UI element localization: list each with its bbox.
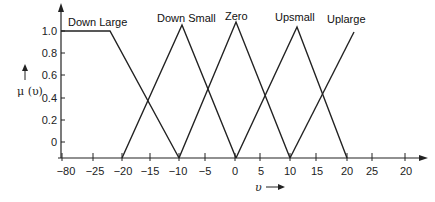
x-tick-label: 5 [258,165,264,177]
y-tick-label: 0 [51,136,57,148]
label-zero: Zero [225,10,248,22]
x-tick-label: −15 [141,165,160,177]
series-uplarge [290,32,354,158]
x-ticks [62,153,405,161]
label-down-large: Down Large [68,16,127,28]
x-axis-label: υ [255,181,262,194]
y-label-arrow-icon [22,64,28,71]
x-axis-arrow-icon [419,155,428,161]
y-axis-label: μ (υ) [17,85,43,98]
x-tick-labels: −80 −25 −20 −15 −10 −5 0 5 10 15 20 25 2… [57,165,412,177]
membership-function-chart: 1.0 0.8 0.6 0.4 0.2 0 −80 −25 −20 −15 −1… [0,0,435,202]
x-tick-label: 10 [284,165,296,177]
x-tick-label: 20 [400,165,412,177]
series-down-large [61,31,179,158]
x-tick-label: 25 [366,165,378,177]
x-tick-label: 15 [311,165,323,177]
x-tick-label: −25 [86,165,105,177]
series-zero [179,22,290,158]
label-uplarge: Uplarge [327,13,366,25]
y-axis-arrow-icon [58,3,64,12]
x-tick-label: −20 [114,165,133,177]
y-tick-label: 0.8 [42,47,57,59]
x-tick-label: 0 [232,165,238,177]
y-tick-labels: 1.0 0.8 0.6 0.4 0.2 0 [42,25,57,148]
label-down-small: Down Small [157,12,216,24]
x-tick-label: −10 [169,165,188,177]
x-tick-label: 20 [341,165,353,177]
y-tick-label: 0.2 [42,114,57,126]
label-upsmall: Upsmall [275,11,315,23]
series-upsmall [236,27,347,158]
y-tick-label: 1.0 [42,25,57,37]
x-label-arrow-icon [278,184,285,190]
series-lines [61,22,354,158]
x-tick-label: −5 [199,165,212,177]
y-tick-label: 0.6 [42,69,57,81]
x-tick-label: −80 [57,165,76,177]
y-tick-label: 0.4 [42,92,57,104]
series-down-small [122,25,236,158]
